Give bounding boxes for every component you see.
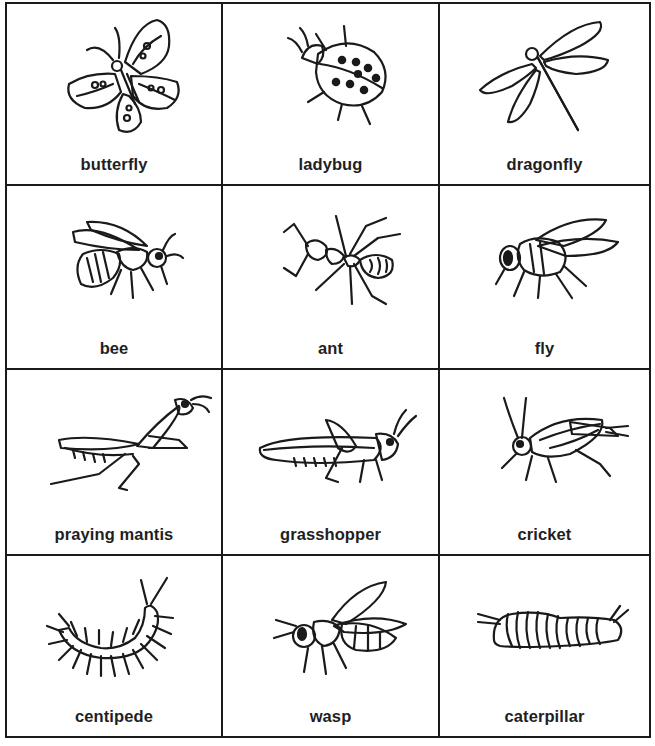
- card-label: bee: [7, 339, 221, 358]
- ant-icon: [246, 194, 416, 324]
- cricket-icon: [460, 378, 630, 508]
- card-label: ladybug: [223, 155, 438, 174]
- card-wasp: wasp: [223, 556, 440, 736]
- card-label: caterpillar: [440, 707, 649, 726]
- card-label: butterfly: [7, 155, 221, 174]
- grasshopper-icon: [246, 378, 416, 508]
- fly-icon: [460, 194, 630, 324]
- ladybug-icon: [246, 12, 416, 142]
- card-label: centipede: [7, 707, 221, 726]
- card-praying-mantis: praying mantis: [7, 370, 223, 556]
- insect-card-grid: butterfly ladybug dragonfly: [5, 2, 651, 738]
- card-centipede: centipede: [7, 556, 223, 736]
- bee-icon: [29, 194, 199, 324]
- praying-mantis-icon: [29, 378, 199, 508]
- card-butterfly: butterfly: [7, 4, 223, 186]
- caterpillar-icon: [460, 564, 630, 694]
- wasp-icon: [246, 564, 416, 694]
- card-label: praying mantis: [7, 525, 221, 544]
- butterfly-icon: [29, 12, 199, 142]
- centipede-icon: [29, 564, 199, 694]
- card-label: dragonfly: [440, 155, 649, 174]
- card-bee: bee: [7, 186, 223, 370]
- card-ladybug: ladybug: [223, 4, 440, 186]
- card-grasshopper: grasshopper: [223, 370, 440, 556]
- card-ant: ant: [223, 186, 440, 370]
- card-cricket: cricket: [440, 370, 649, 556]
- card-caterpillar: caterpillar: [440, 556, 649, 736]
- dragonfly-icon: [460, 12, 630, 142]
- card-dragonfly: dragonfly: [440, 4, 649, 186]
- card-label: wasp: [223, 707, 438, 726]
- card-label: cricket: [440, 525, 649, 544]
- card-label: fly: [440, 339, 649, 358]
- card-fly: fly: [440, 186, 649, 370]
- card-label: ant: [223, 339, 438, 358]
- card-label: grasshopper: [223, 525, 438, 544]
